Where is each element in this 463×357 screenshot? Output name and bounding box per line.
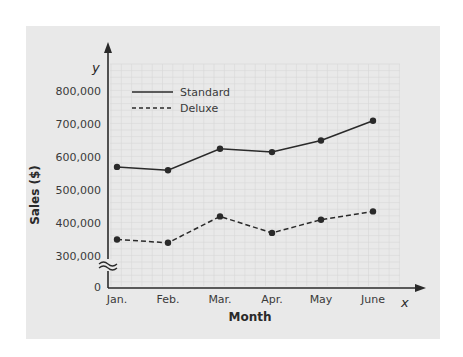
x-axis-title: Month bbox=[228, 310, 271, 324]
x-axis-variable: x bbox=[400, 295, 409, 310]
x-axis-arrow-icon bbox=[415, 284, 426, 292]
x-tick-label: June bbox=[360, 293, 385, 306]
data-point-standard bbox=[114, 164, 120, 170]
data-point-deluxe bbox=[370, 208, 376, 214]
axis-break-icon bbox=[99, 259, 117, 271]
y-axis-title: Sales ($) bbox=[28, 165, 42, 225]
y-tick-label: 800,000 bbox=[56, 85, 102, 98]
line-chart: y x 800,000 700,000 600,000 500,000 400,… bbox=[0, 0, 463, 357]
y-tick-label: 500,000 bbox=[56, 184, 102, 197]
data-point-deluxe bbox=[165, 240, 171, 246]
data-point-standard bbox=[217, 146, 223, 152]
y-axis-arrow-icon bbox=[104, 42, 112, 53]
data-point-standard bbox=[318, 137, 324, 143]
legend-standard-label: Standard bbox=[180, 86, 230, 99]
x-tick-label: Feb. bbox=[157, 293, 180, 306]
x-tick-label: Apr. bbox=[261, 293, 283, 306]
y-tick-label: 400,000 bbox=[56, 217, 102, 230]
legend-deluxe-label: Deluxe bbox=[180, 102, 218, 115]
data-point-deluxe bbox=[114, 236, 120, 242]
y-tick-label: 300,000 bbox=[56, 250, 102, 263]
y-tick-labels: 800,000 700,000 600,000 500,000 400,000 … bbox=[56, 85, 102, 294]
data-point-deluxe bbox=[269, 230, 275, 236]
x-tick-labels: Jan. Feb. Mar. Apr. May June bbox=[106, 293, 385, 306]
y-tick-label: 0 bbox=[94, 281, 101, 294]
grid bbox=[110, 64, 400, 286]
data-point-standard bbox=[165, 167, 171, 173]
y-tick-label: 700,000 bbox=[56, 118, 102, 131]
y-axis-variable: y bbox=[91, 60, 100, 75]
x-tick-label: Mar. bbox=[208, 293, 231, 306]
data-point-deluxe bbox=[217, 213, 223, 219]
y-tick-label: 600,000 bbox=[56, 151, 102, 164]
x-tick-label: Jan. bbox=[106, 293, 127, 306]
data-point-standard bbox=[370, 118, 376, 124]
x-tick-label: May bbox=[310, 293, 333, 306]
data-point-standard bbox=[269, 149, 275, 155]
data-point-deluxe bbox=[318, 217, 324, 223]
